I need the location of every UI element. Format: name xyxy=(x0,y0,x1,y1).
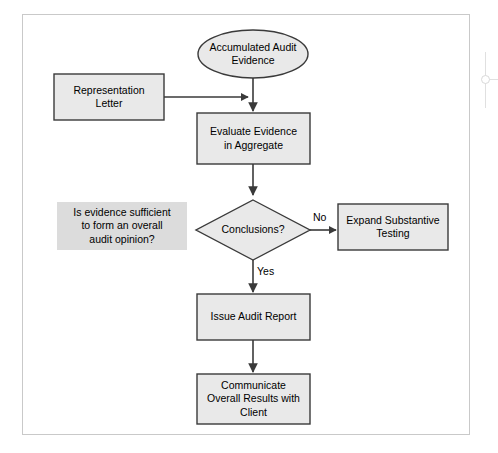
diagram-canvas: Accumulated Audit Evidence Representatio… xyxy=(0,0,498,453)
shape-expand-substantive-testing[interactable] xyxy=(338,204,448,250)
shape-representation-letter[interactable] xyxy=(54,74,164,120)
edge-label-yes: Yes xyxy=(257,265,274,278)
edge-label-no: No xyxy=(313,211,326,224)
shape-conclusions-decision[interactable] xyxy=(196,200,310,260)
shape-evaluate-evidence-in-aggregate[interactable] xyxy=(197,113,310,164)
shape-communicate-overall-results[interactable] xyxy=(197,374,310,424)
flowchart-shapes xyxy=(0,0,498,453)
shape-issue-audit-report[interactable] xyxy=(197,294,310,340)
shape-evidence-sufficiency-note xyxy=(57,202,187,250)
shape-accumulated-audit-evidence[interactable] xyxy=(198,30,308,78)
